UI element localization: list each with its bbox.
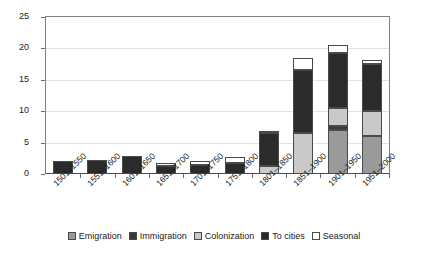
x-axis-tick-mark: [115, 174, 116, 178]
x-axis-tick-mark: [149, 174, 150, 178]
legend-swatch-icon: [261, 232, 269, 240]
bar-slot: [355, 17, 389, 174]
legend-label: Emigration: [79, 231, 122, 241]
x-axis-tick-mark: [355, 174, 356, 178]
x-axis-tick-mark: [286, 174, 287, 178]
bar-segment-colonization: [328, 108, 348, 126]
bar-slot: [46, 17, 80, 174]
x-axis-tick-mark: [218, 174, 219, 178]
legend-swatch-icon: [68, 232, 76, 240]
y-axis-tick-label: 0: [24, 169, 29, 178]
y-axis-tick-label: 5: [24, 138, 29, 147]
legend-item[interactable]: Colonization: [194, 231, 255, 241]
bar-slot: [218, 17, 252, 174]
legend-swatch-icon: [312, 232, 320, 240]
bar-slot: [115, 17, 149, 174]
bar-segment-seasonal: [362, 60, 382, 64]
bar-segment-colonization: [362, 111, 382, 136]
legend-swatch-icon: [194, 232, 202, 240]
bar-slot: [149, 17, 183, 174]
chart-legend: EmigrationImmigrationColonizationTo citi…: [0, 231, 428, 241]
legend-swatch-icon: [129, 232, 137, 240]
bar-slot: [183, 17, 217, 174]
bar-slot: [252, 17, 286, 174]
bar-slot: [320, 17, 354, 174]
x-axis-tick-mark: [320, 174, 321, 178]
legend-label: Immigration: [140, 231, 187, 241]
y-axis-tick-mark: [41, 174, 45, 175]
x-axis-tick-mark: [183, 174, 184, 178]
x-axis-tick-mark: [252, 174, 253, 178]
bar-segment-to-cities: [362, 64, 382, 111]
legend-item[interactable]: Immigration: [129, 231, 187, 241]
bar-segment-to-cities: [293, 70, 313, 133]
legend-label: Colonization: [205, 231, 255, 241]
bar-segment-immigration: [328, 126, 348, 130]
bar-slot: [80, 17, 114, 174]
y-axis-tick-label: 10: [19, 106, 29, 115]
y-axis-tick-label: 20: [19, 43, 29, 52]
y-axis-tick-label: 15: [19, 75, 29, 84]
legend-label: Seasonal: [323, 231, 361, 241]
legend-item[interactable]: Seasonal: [312, 231, 361, 241]
bar-segment-seasonal: [328, 45, 348, 53]
y-axis-tick-label: 25: [19, 12, 29, 21]
x-axis-tick-mark: [80, 174, 81, 178]
legend-label: To cities: [272, 231, 305, 241]
chart-container: 0510152025 1501–15501551–16001601–165016…: [0, 0, 428, 260]
bar-segment-seasonal: [293, 58, 313, 71]
bar-slot: [286, 17, 320, 174]
x-axis-tick-mark: [389, 174, 390, 178]
bar-segment-to-cities: [328, 53, 348, 108]
legend-item[interactable]: Emigration: [68, 231, 122, 241]
legend-item[interactable]: To cities: [261, 231, 305, 241]
bar-segment-seasonal: [259, 131, 279, 134]
